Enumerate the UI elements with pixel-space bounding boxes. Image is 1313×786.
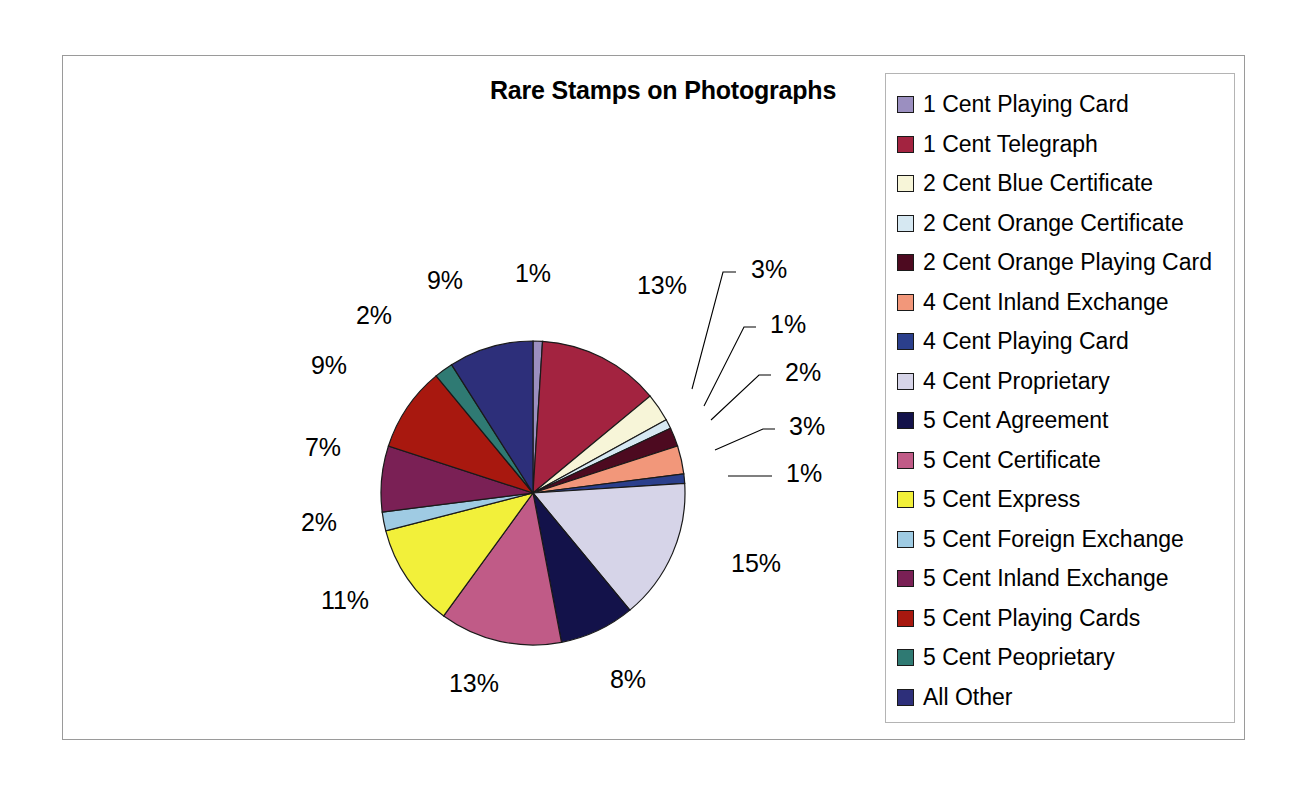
legend-item[interactable]: 4 Cent Proprietary xyxy=(897,362,1234,402)
legend: 1 Cent Playing Card1 Cent Telegraph2 Cen… xyxy=(885,73,1235,723)
pie-percent-label: 15% xyxy=(731,549,781,577)
leader-line xyxy=(704,327,756,406)
legend-item-label: 4 Cent Playing Card xyxy=(923,330,1129,353)
legend-color-swatch xyxy=(897,175,914,192)
legend-item[interactable]: 2 Cent Orange Certificate xyxy=(897,204,1234,244)
legend-item-label: 5 Cent Inland Exchange xyxy=(923,567,1169,590)
legend-item[interactable]: 5 Cent Certificate xyxy=(897,441,1234,481)
pie-percent-label: 2% xyxy=(301,508,337,536)
pie-percent-label: 8% xyxy=(610,665,646,693)
legend-color-swatch xyxy=(897,649,914,666)
pie-percent-label: 2% xyxy=(785,358,821,386)
legend-item[interactable]: 2 Cent Blue Certificate xyxy=(897,164,1234,204)
legend-color-swatch xyxy=(897,373,914,390)
pie-leader-lines-group xyxy=(692,272,775,476)
legend-item[interactable]: 5 Cent Inland Exchange xyxy=(897,559,1234,599)
legend-item[interactable]: 1 Cent Playing Card xyxy=(897,85,1234,125)
legend-item[interactable]: 5 Cent Agreement xyxy=(897,401,1234,441)
legend-item-label: 1 Cent Telegraph xyxy=(923,133,1098,156)
legend-color-swatch xyxy=(897,215,914,232)
legend-color-swatch xyxy=(897,412,914,429)
pie-percent-label: 1% xyxy=(786,459,822,487)
legend-color-swatch xyxy=(897,96,914,113)
legend-item[interactable]: 4 Cent Inland Exchange xyxy=(897,283,1234,323)
legend-item-label: 5 Cent Certificate xyxy=(923,449,1101,472)
pie-percent-label: 7% xyxy=(305,433,341,461)
legend-color-swatch xyxy=(897,294,914,311)
pie-percent-label: 9% xyxy=(311,351,347,379)
legend-color-swatch xyxy=(897,491,914,508)
pie-percent-label: 3% xyxy=(789,412,825,440)
legend-color-swatch xyxy=(897,610,914,627)
legend-color-swatch xyxy=(897,531,914,548)
pie-percent-label: 13% xyxy=(637,271,687,299)
legend-color-swatch xyxy=(897,136,914,153)
pie-percent-label: 1% xyxy=(770,310,806,338)
pie-chart-area: 1%13%3%1%2%3%1%15%8%13%11%2%7%9%2%9% xyxy=(63,56,883,741)
legend-color-swatch xyxy=(897,452,914,469)
legend-item-label: 5 Cent Foreign Exchange xyxy=(923,528,1184,551)
pie-percent-label: 3% xyxy=(751,255,787,283)
legend-item-label: 5 Cent Playing Cards xyxy=(923,607,1140,630)
legend-item[interactable]: 5 Cent Playing Cards xyxy=(897,599,1234,639)
legend-item-label: 2 Cent Blue Certificate xyxy=(923,172,1153,195)
legend-item-label: 5 Cent Express xyxy=(923,488,1080,511)
legend-item-label: 1 Cent Playing Card xyxy=(923,93,1129,116)
legend-item-label: 4 Cent Inland Exchange xyxy=(923,291,1169,314)
legend-item[interactable]: 1 Cent Telegraph xyxy=(897,125,1234,165)
pie-slices-group xyxy=(381,341,685,645)
legend-item[interactable]: All Other xyxy=(897,678,1234,718)
pie-percent-label: 11% xyxy=(321,586,369,614)
legend-item[interactable]: 4 Cent Playing Card xyxy=(897,322,1234,362)
pie-percent-label: 2% xyxy=(356,301,392,329)
legend-item-label: 4 Cent Proprietary xyxy=(923,370,1110,393)
pie-percent-label: 9% xyxy=(427,266,463,294)
leader-line xyxy=(715,429,775,450)
legend-item[interactable]: 5 Cent Foreign Exchange xyxy=(897,520,1234,560)
legend-color-swatch xyxy=(897,570,914,587)
legend-item-label: 2 Cent Orange Playing Card xyxy=(923,251,1212,274)
legend-item[interactable]: 5 Cent Peoprietary xyxy=(897,638,1234,678)
legend-items-list: 1 Cent Playing Card1 Cent Telegraph2 Cen… xyxy=(897,85,1234,717)
pie-chart-svg: 1%13%3%1%2%3%1%15%8%13%11%2%7%9%2%9% xyxy=(63,56,883,741)
legend-color-swatch xyxy=(897,333,914,350)
legend-item-label: All Other xyxy=(923,686,1012,709)
legend-item-label: 2 Cent Orange Certificate xyxy=(923,212,1184,235)
leader-line xyxy=(711,375,771,420)
chart-frame: Rare Stamps on Photographs 1%13%3%1%2%3%… xyxy=(62,55,1245,740)
leader-line xyxy=(692,272,736,389)
legend-item-label: 5 Cent Peoprietary xyxy=(923,646,1115,669)
pie-percent-label: 1% xyxy=(515,259,551,287)
pie-percent-label: 13% xyxy=(449,669,499,697)
legend-color-swatch xyxy=(897,254,914,271)
legend-item-label: 5 Cent Agreement xyxy=(923,409,1108,432)
legend-item[interactable]: 2 Cent Orange Playing Card xyxy=(897,243,1234,283)
legend-item[interactable]: 5 Cent Express xyxy=(897,480,1234,520)
legend-color-swatch xyxy=(897,689,914,706)
